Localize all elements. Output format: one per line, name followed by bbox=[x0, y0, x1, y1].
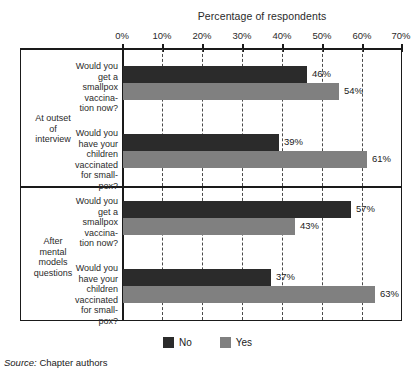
x-axis-tick-labels: 0% 10% 20% 30% 40% 50% 60% 70% bbox=[0, 30, 415, 44]
source-label: Source: bbox=[4, 357, 37, 368]
bar-value-no-q2: 39% bbox=[284, 136, 303, 147]
x-tick-label-60: 60% bbox=[352, 30, 371, 41]
bar-no-q1[interactable] bbox=[123, 66, 307, 83]
bar-yes-q4[interactable] bbox=[123, 286, 375, 303]
source-text: Chapter authors bbox=[39, 357, 107, 368]
chart-legend: No Yes bbox=[0, 334, 415, 350]
bar-value-no-q1: 46% bbox=[312, 68, 331, 79]
x-tick-label-50: 50% bbox=[312, 30, 331, 41]
bar-yes-q1[interactable] bbox=[123, 83, 339, 100]
legend-label-yes: Yes bbox=[236, 337, 252, 348]
legend-item-yes[interactable]: Yes bbox=[220, 337, 252, 348]
question-label-2: Would youhave yourchildrenvaccinatedfor … bbox=[60, 128, 118, 191]
x-tick-label-40: 40% bbox=[272, 30, 291, 41]
x-tick-label-70: 70% bbox=[391, 30, 410, 41]
legend-swatch-no-icon bbox=[163, 337, 174, 348]
legend-item-no[interactable]: No bbox=[163, 337, 192, 348]
bar-value-no-q3: 57% bbox=[356, 203, 375, 214]
x-tick-label-30: 30% bbox=[232, 30, 251, 41]
question-label-3: Would youget asmallpoxvaccina-tion now? bbox=[60, 196, 118, 249]
question-label-4: Would youhave yourchildrenvaccinatedfor … bbox=[60, 263, 118, 326]
bar-no-q2[interactable] bbox=[123, 134, 279, 151]
bar-no-q4[interactable] bbox=[123, 269, 271, 286]
bar-value-yes-q1: 54% bbox=[344, 85, 363, 96]
x-tick-label-20: 20% bbox=[192, 30, 211, 41]
bar-value-yes-q3: 43% bbox=[300, 220, 319, 231]
bar-yes-q2[interactable] bbox=[123, 151, 367, 168]
bar-value-no-q4: 37% bbox=[276, 271, 295, 282]
chart-title: Percentage of respondents bbox=[122, 10, 402, 22]
bar-no-q3[interactable] bbox=[123, 201, 351, 218]
bar-value-yes-q2: 61% bbox=[372, 153, 391, 164]
legend-swatch-yes-icon bbox=[220, 337, 231, 348]
legend-label-no: No bbox=[179, 337, 192, 348]
bar-value-yes-q4: 63% bbox=[380, 288, 399, 299]
source-note: Source: Chapter authors bbox=[4, 357, 108, 368]
bar-yes-q3[interactable] bbox=[123, 218, 295, 235]
x-tick-label-10: 10% bbox=[152, 30, 171, 41]
question-label-1: Would youget asmallpoxvaccina-tion now? bbox=[60, 61, 118, 114]
x-tick-label-0: 0% bbox=[115, 30, 129, 41]
